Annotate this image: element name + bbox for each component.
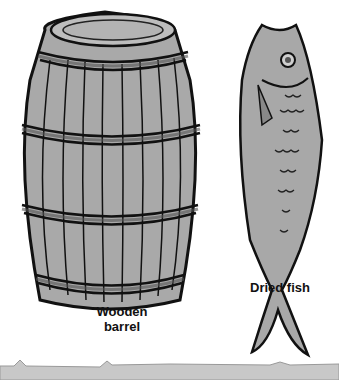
wooden-barrel-drawing (22, 12, 200, 309)
fish-label: Dried fish (240, 280, 320, 295)
barrel-label-line-1: Wooden (92, 304, 152, 319)
dried-fish-drawing (240, 25, 322, 355)
ground-strip (0, 360, 339, 380)
barrel-label-line-2: barrel (92, 319, 152, 334)
illustration-canvas (0, 0, 339, 380)
barrel-label: Wooden barrel (92, 304, 152, 334)
